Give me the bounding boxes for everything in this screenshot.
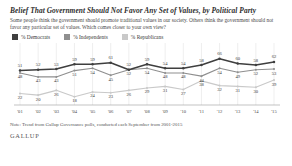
data-point [218,58,221,61]
data-label: 53 [272,71,277,76]
x-tick-label: '11 [199,109,205,114]
data-point [200,64,203,67]
data-label: 52 [254,71,259,76]
x-tick-label: '14 [253,109,259,114]
data-label: 58 [199,58,204,63]
data-label: 62 [272,55,277,60]
chart-legend: % Democrats % Independents % Republicans [10,34,282,40]
data-label: 26 [127,92,132,97]
x-tick-label: '15 [271,109,277,114]
data-label: 31 [235,88,240,93]
data-point [128,69,131,72]
data-point [37,69,40,72]
legend-label-republicans: % Republicans [131,34,164,40]
data-point [273,61,276,64]
data-point [91,63,94,66]
data-label: 29 [145,90,150,95]
chart-plot-area: 2220261824232629312738323130394843435154… [10,41,282,119]
data-label: 18 [72,98,77,103]
page-title: Belief That Government Should Not Favor … [10,6,282,15]
data-label: 20 [36,97,41,102]
x-tick-label: '13 [235,109,241,114]
x-tick-label: '01 [17,109,23,114]
data-label: 52 [127,71,132,76]
x-tick-label: '09 [162,109,168,114]
x-tick-label: '12 [217,109,223,114]
x-tick-label: '02 [35,109,41,114]
legend-item-independents[interactable]: % Independents [64,34,108,40]
chart-page: Belief That Government Should Not Favor … [0,0,292,166]
x-tick-label: '04 [72,109,78,114]
data-label: 49 [235,74,240,79]
data-label: 54 [145,70,150,75]
data-label: 51 [18,63,23,68]
data-label: 59 [145,57,150,62]
data-label: 26 [54,92,59,97]
data-point [146,63,149,66]
data-label: 52 [127,62,132,67]
data-point [164,67,167,70]
data-label: 43 [54,79,59,84]
data-point [73,63,76,66]
legend-swatch-independents [64,34,70,40]
data-label: 54 [90,70,95,75]
data-label: 54 [181,61,186,66]
data-point [55,68,58,71]
x-tick-label: '07 [126,109,132,114]
data-label: 22 [18,95,23,100]
data-label: 61 [108,55,113,60]
data-label: 60 [235,56,240,61]
chart-subtitle: Some people think the government should … [10,17,282,30]
legend-item-democrats[interactable]: % Democrats [12,34,50,40]
data-point [182,67,185,70]
data-label: 43 [36,79,41,84]
data-label: 59 [72,57,77,62]
x-tick-label: '10 [181,109,187,114]
legend-label-independents: % Independents [73,34,108,40]
chart-note: Note: Trend from Gallup Governance polls… [10,122,282,127]
data-label: 48 [163,75,168,80]
x-tick-label: '03 [54,109,60,114]
data-label: 39 [272,82,277,87]
data-label: 48 [18,75,23,80]
data-point [19,70,22,73]
data-label: 54 [163,61,168,66]
data-label: 48 [181,75,186,80]
legend-label-democrats: % Democrats [21,34,50,40]
data-label: 31 [163,88,168,93]
data-label: 38 [199,83,204,88]
legend-swatch-republicans [122,34,128,40]
data-point [255,64,258,67]
data-label: 53 [54,62,59,67]
data-point [236,62,239,65]
data-label: 27 [181,91,186,96]
gallup-logo: GALLUP [10,132,282,139]
data-label: 24 [90,94,95,99]
line-chart-svg: 2220261824232629312738323130394843435154… [10,41,282,119]
x-tick-label: '08 [144,109,150,114]
data-label: 51 [72,72,77,77]
data-label: 30 [254,89,259,94]
legend-swatch-democrats [12,34,18,40]
data-label: 66 [217,51,222,56]
data-label: 32 [217,87,222,92]
legend-item-republicans[interactable]: % Republicans [122,34,164,40]
data-label: 54 [217,70,222,75]
data-point [109,62,112,65]
data-label: 59 [90,57,95,62]
x-tick-label: '06 [108,109,114,114]
x-tick-label: '05 [90,109,96,114]
data-label: 45 [108,77,113,82]
data-label: 23 [108,94,113,99]
data-label: 58 [254,58,259,63]
data-label: 52 [36,62,41,67]
data-label: 44 [199,78,204,83]
